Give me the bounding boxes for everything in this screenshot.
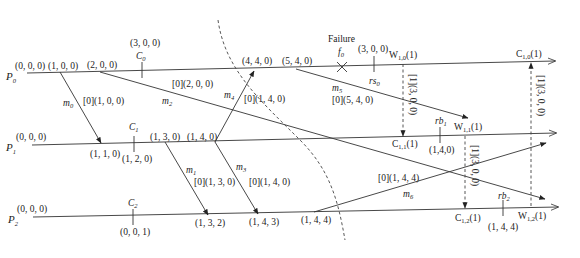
p2-checkpoint-label: C2 xyxy=(128,198,138,209)
c10-label: C1,0(1) xyxy=(516,49,542,60)
p0-event-2: (2, 0, 0) xyxy=(87,60,117,71)
p2-event-4: (1, 4, 4) xyxy=(301,215,331,226)
p1-init: (0, 0, 0) xyxy=(16,132,46,143)
m1-tag: [0](1, 3, 0) xyxy=(194,177,235,188)
rb1-label: rb1 xyxy=(435,116,447,127)
m4-tag: [0](1, 4, 0) xyxy=(244,94,285,105)
m6-label: m6 xyxy=(403,189,414,200)
p0-checkpoint-vec: (3, 0, 0) xyxy=(130,38,160,49)
p0-checkpoint-label: C0 xyxy=(136,51,146,62)
rb2-label: rb2 xyxy=(498,191,510,202)
m1-label: m1 xyxy=(186,165,196,176)
w12-label: W1,2(1) xyxy=(518,211,546,222)
message-m5-arrow xyxy=(296,69,468,118)
m0-tag: [0](1, 0, 0) xyxy=(83,96,124,107)
p1-timeline xyxy=(32,133,556,145)
m3-tag: [0](1, 4, 0) xyxy=(249,177,290,188)
m5-label: m5 xyxy=(332,83,343,94)
m2-label: m2 xyxy=(162,96,173,107)
p1-checkpoint-vec: (1, 2, 0) xyxy=(122,154,152,165)
p1-event-3: (1, 3, 0) xyxy=(150,132,180,143)
p2-label: P2 xyxy=(7,213,19,227)
failure-f-label: f0 xyxy=(338,47,345,58)
w10-label: W1,0(1) xyxy=(389,50,417,61)
p2-checkpoint-vec: (0, 0, 1) xyxy=(120,227,150,238)
rs-label: rs0 xyxy=(369,76,380,87)
p0-event-4: (4, 4, 0) xyxy=(242,56,272,67)
m4-label: m4 xyxy=(224,90,235,101)
p2-event-2: (1, 3, 2) xyxy=(195,218,225,229)
p0-init: (0, 0, 0) xyxy=(15,61,45,72)
m0-label: m0 xyxy=(63,98,74,109)
p1-event-1: (1, 1, 0) xyxy=(90,149,120,160)
m3-label: m3 xyxy=(236,162,247,173)
p1-label: P1 xyxy=(5,141,16,155)
m6-tag: [0](1, 4, 4) xyxy=(378,173,419,184)
rs-vec: (3, 0, 0) xyxy=(358,44,388,55)
rb2-vec: (1, 4, 4) xyxy=(488,222,518,233)
control-msg-to-p1-tag: [1](3, 0, 0) xyxy=(407,74,418,115)
p1-event-4: (1, 4, 0) xyxy=(187,132,217,143)
recovery-line xyxy=(218,20,345,240)
control-msg-to-p0-tag: [1](3, 0, 0) xyxy=(535,75,546,116)
p0-event-5: (5, 4, 0) xyxy=(282,56,312,67)
p2-init: (0, 0, 0) xyxy=(17,204,47,215)
c11-label: C1,1(1) xyxy=(392,139,418,150)
m5-tag: [0](5, 4, 0) xyxy=(332,95,373,106)
rb1-vec: (1,4,0) xyxy=(429,145,454,156)
failure-label: Failure xyxy=(328,34,355,44)
w11-label: W1,1(1) xyxy=(454,122,482,133)
control-msg-to-p2-tag: [1](3, 0, 0) xyxy=(469,145,480,186)
failure-x-icon xyxy=(337,62,347,72)
m2-tag: [0](2, 0, 0) xyxy=(172,79,213,90)
p0-label: P0 xyxy=(5,70,17,84)
c12-label: C1,2(1) xyxy=(455,213,481,224)
p1-checkpoint-label: C1 xyxy=(129,122,139,133)
checkpoint-diagram: P0 (0, 0, 0) P1 (0, 0, 0) P2 (0, 0, 0) (… xyxy=(0,0,580,258)
p0-event-1: (1, 0, 0) xyxy=(48,61,78,72)
p2-event-3: (1, 4, 3) xyxy=(249,217,279,228)
